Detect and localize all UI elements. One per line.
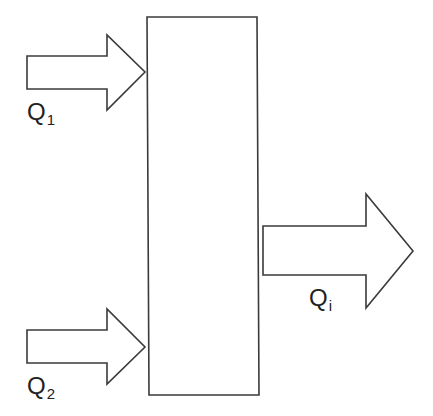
label-q2: Q2 <box>27 374 55 401</box>
label-q1-symbol: Q <box>27 98 46 125</box>
label-q2-subscript: 2 <box>47 385 55 402</box>
label-qi: Qi <box>309 286 332 313</box>
label-q1-subscript: 1 <box>47 111 55 128</box>
label-qi-subscript: i <box>329 297 332 314</box>
label-q2-symbol: Q <box>27 372 46 399</box>
label-qi-symbol: Q <box>309 284 328 311</box>
mixing-block <box>147 17 259 395</box>
label-q1: Q1 <box>27 100 55 127</box>
diagram-canvas <box>0 0 433 416</box>
output-arrow <box>263 194 413 308</box>
